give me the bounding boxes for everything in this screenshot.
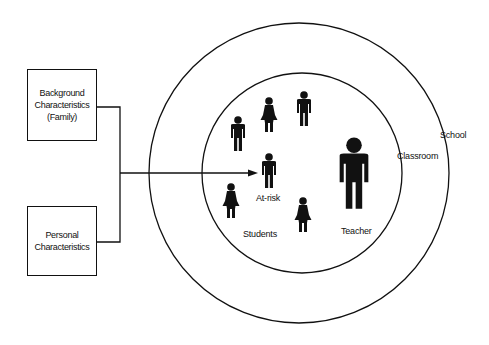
at-risk-label: At-risk <box>256 193 280 204</box>
background-characteristics-box: Background Characteristics (Family) <box>27 69 97 141</box>
arrowhead-icon <box>248 170 258 177</box>
school-label: School <box>440 130 466 141</box>
student-male-icon <box>297 91 311 126</box>
personal-characteristics-box: Personal Characteristics <box>27 206 97 276</box>
at-risk-student-icon <box>262 153 276 188</box>
student-female-icon <box>261 97 278 132</box>
classroom-label: Classroom <box>397 151 438 162</box>
teacher-icon <box>340 137 369 208</box>
teacher-label: Teacher <box>341 226 372 237</box>
student-male-icon <box>231 116 245 151</box>
student-female-icon <box>223 183 240 218</box>
background-characteristics-label: Background Characteristics (Family) <box>34 87 89 123</box>
students-label: Students <box>243 229 277 240</box>
connector-lines <box>97 107 250 242</box>
diagram-canvas <box>0 0 489 345</box>
personal-characteristics-label: Personal Characteristics <box>34 229 89 253</box>
student-female-icon <box>295 197 312 232</box>
